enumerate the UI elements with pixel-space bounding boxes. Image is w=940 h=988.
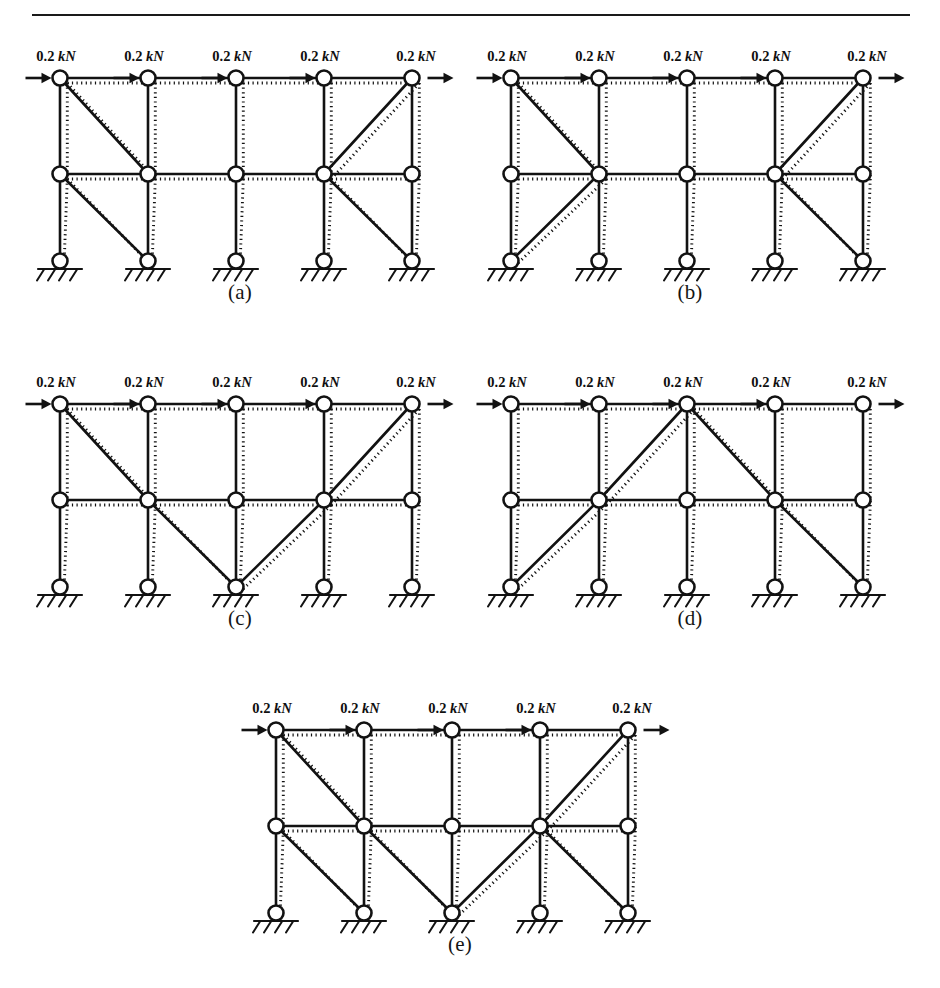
load-arrow-head [669,73,679,83]
load-label: 0.2 kN [487,374,527,390]
joint-node [592,397,607,412]
load-label: 0.2 kN [575,374,615,390]
load-label: 0.2 kN [36,48,76,64]
joint-node [445,723,460,738]
deformed-member [547,735,635,831]
deformed-member [283,735,371,831]
joint-node [229,493,244,508]
joint-node [141,254,156,269]
joint-node [856,254,871,269]
joint-node [317,397,332,412]
supports-a [37,269,434,281]
joint-node [592,580,607,595]
brace-member [540,730,628,826]
joint-node [768,71,783,86]
joint-node [680,580,695,595]
joint-node [53,397,68,412]
joint-node [53,71,68,86]
load-arrow-head [493,73,503,83]
support-hatch [521,270,528,281]
joint-node [621,906,636,921]
brace-member [599,404,687,500]
deformed-member [867,179,870,266]
load-label: 0.2 kN [36,374,76,390]
support-hatch [616,922,623,933]
load-arrow-head [444,73,454,83]
support-hatch [246,270,253,281]
brace-member [687,404,775,500]
load-arrow-head [581,73,591,83]
load-arrow-head [258,725,268,735]
deformed-member [691,505,694,592]
joint-node [357,906,372,921]
load-arrow-head [660,725,670,735]
load-label: 0.2 kN [212,374,252,390]
support-hatch [785,270,792,281]
load-label: 0.2 kN [663,48,703,64]
deformed-member [67,83,155,179]
joint-node [317,580,332,595]
load-label: 0.2 kN [340,700,380,716]
support-hatch [158,270,165,281]
load-label: 0.2 kN [487,48,527,64]
support-hatch [851,270,858,281]
joint-node [504,167,519,182]
joint-node [317,493,332,508]
support-hatch [528,922,535,933]
load-label: 0.2 kN [300,374,340,390]
support-hatch [763,596,770,607]
load-label: 0.2 kN [396,48,436,64]
brace-member [276,730,364,826]
support-hatch [341,922,348,933]
support-hatch [136,270,143,281]
frame-svg-c: 0.2 kN0.2 kN0.2 kN0.2 kN0.2 kN [34,370,464,627]
deformed-member [782,83,870,179]
caption-c: (c) [180,606,300,631]
support-hatch [275,922,282,933]
support-hatch [125,596,132,607]
load-arrow-head [130,73,140,83]
deformed-member [691,179,694,266]
deformed-member [603,179,606,266]
joint-node [504,397,519,412]
load-arrow-head [757,399,767,409]
load-arrow-head [895,73,905,83]
support-hatch [686,596,693,607]
deformed-member [603,505,606,592]
support-hatch [587,596,594,607]
brace-member [511,500,599,587]
support-hatch [352,922,359,933]
joint-node [405,493,420,508]
joint-node [856,493,871,508]
joint-node [269,906,284,921]
caption-b: (b) [630,280,750,305]
load-arrow-head [218,399,228,409]
deformed-member [416,505,419,592]
load-label: 0.2 kN [612,700,652,716]
brace-member [324,404,412,500]
caption-a: (a) [180,280,300,305]
support-hatch [664,270,671,281]
load-label: 0.2 kN [212,48,252,64]
joint-node [269,723,284,738]
load-label: 0.2 kN [396,374,436,390]
support-hatch [400,270,407,281]
joint-node [405,580,420,595]
support-hatch [664,596,671,607]
brace-member [511,78,599,174]
support-hatch [334,270,341,281]
joint-node [317,71,332,86]
joint-node [53,493,68,508]
joint-node [141,397,156,412]
deformed-member [240,179,243,266]
deformed-member [152,505,155,592]
load-label: 0.2 kN [847,48,887,64]
support-hatch [389,270,396,281]
deformed-member [416,179,419,266]
joint-node [229,580,244,595]
frame-diagram-d: 0.2 kN0.2 kN0.2 kN0.2 kN0.2 kN [485,370,915,627]
support-hatch [213,270,220,281]
support-hatch [517,922,524,933]
support-hatch [462,922,469,933]
support-hatch [400,596,407,607]
